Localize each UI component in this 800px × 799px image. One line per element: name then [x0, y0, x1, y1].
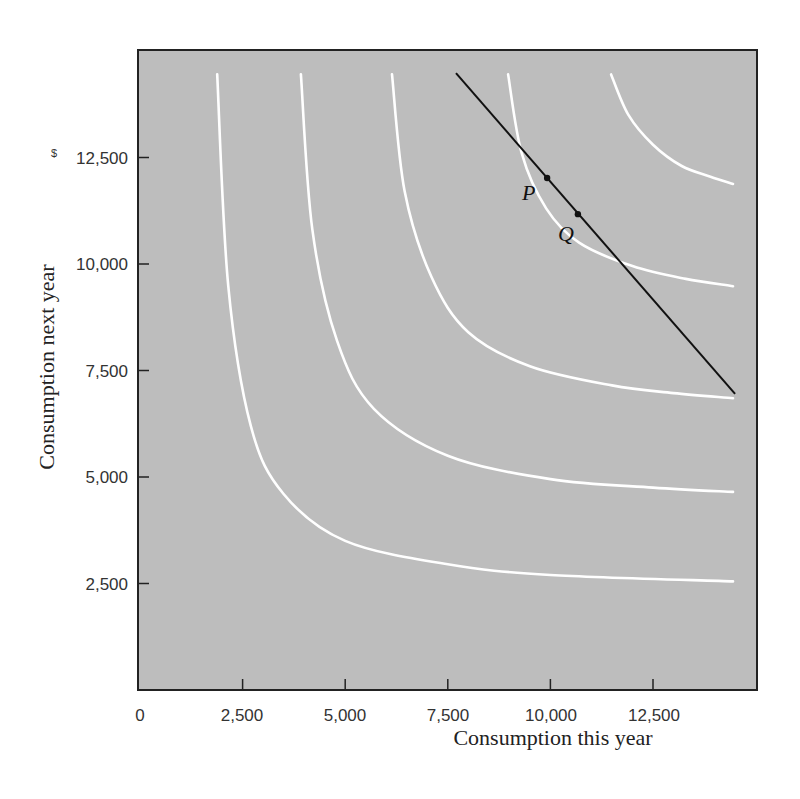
x-tick-0: 0	[135, 706, 144, 725]
plot-area	[138, 50, 757, 690]
y-tick-7500: 7,500	[85, 362, 128, 381]
y-axis-title: Consumption next year	[34, 264, 59, 470]
x-tick-2500: 2,500	[221, 706, 264, 725]
point-p-label: P	[521, 180, 535, 205]
point-q-label: Q	[558, 221, 574, 246]
y-tick-2500: 2,500	[85, 575, 128, 594]
x-tick-12500: 12,500	[628, 706, 680, 725]
chart-canvas: 0 2,500 5,000 7,500 10,000 12,500 2,500 …	[0, 0, 800, 799]
x-axis-title: Consumption this year	[453, 725, 653, 750]
y-tick-12500: 12,500	[76, 149, 128, 168]
point-q-marker	[575, 211, 581, 217]
x-tick-labels: 0 2,500 5,000 7,500 10,000 12,500	[135, 706, 680, 725]
y-tick-labels: 2,500 5,000 7,500 10,000 12,500 $	[51, 147, 128, 594]
y-tick-5000: 5,000	[85, 468, 128, 487]
y-tick-10000: 10,000	[76, 255, 128, 274]
point-p-marker	[544, 175, 550, 181]
dollar-sign: $	[51, 147, 57, 159]
x-tick-5000: 5,000	[324, 706, 367, 725]
x-tick-10000: 10,000	[525, 706, 577, 725]
x-tick-7500: 7,500	[427, 706, 470, 725]
